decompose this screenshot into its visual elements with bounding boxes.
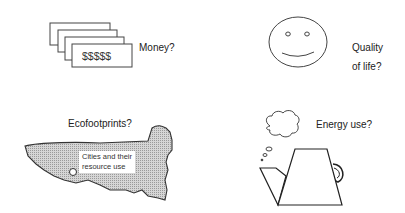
face-outline — [269, 17, 327, 67]
bubble-small — [261, 159, 263, 161]
bubble-large — [266, 147, 272, 151]
kettle-body — [278, 149, 342, 205]
bubble-medium — [263, 154, 267, 157]
banknote-text: $$$$$ — [82, 50, 111, 62]
cities-resource-box: Cities and their resource use — [79, 151, 135, 173]
kettle-icon — [260, 149, 343, 205]
cities-label-line2: resource use — [82, 162, 132, 172]
diagram-canvas — [0, 0, 405, 213]
quality-label-line1: Quality — [352, 42, 383, 54]
energy-label: Energy use? — [316, 119, 372, 131]
ecofootprint-label: Ecofootprints? — [68, 118, 132, 130]
city-marker — [70, 169, 77, 176]
smile-mouth — [282, 52, 314, 56]
cities-label-line1: Cities and their — [82, 152, 132, 162]
left-eye — [286, 32, 291, 36]
smiley-face-icon — [269, 17, 327, 67]
quality-label-line2: of life? — [352, 61, 381, 73]
right-eye — [305, 32, 310, 36]
money-label: Money? — [139, 42, 175, 54]
thought-cloud — [266, 111, 299, 137]
